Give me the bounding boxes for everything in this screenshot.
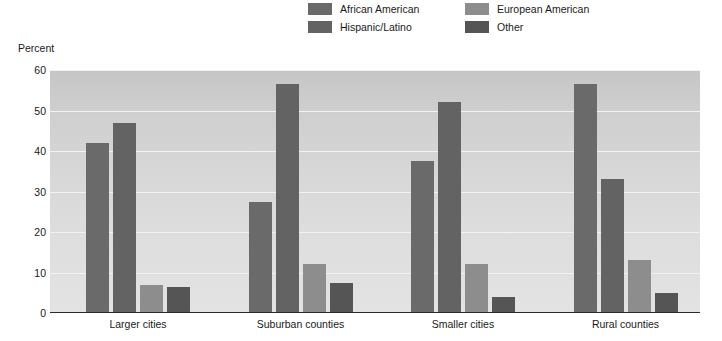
legend-item-european-american: European American [465,3,589,15]
y-axis-tick-label: 60 [6,64,46,76]
legend-swatch-icon [308,3,332,15]
legend-item-other: Other [465,21,523,33]
y-axis-tick-label: 30 [6,186,46,198]
chart-legend: African American European American Hispa… [308,3,608,37]
x-axis-baseline [50,312,700,314]
legend-item-hispanic-latino: Hispanic/Latino [308,21,412,33]
bar [167,287,190,313]
legend-swatch-icon [465,3,489,15]
x-axis-category-label: Rural counties [592,318,659,330]
bar [574,84,597,313]
bar [438,102,461,313]
bar [411,161,434,313]
bar [601,179,624,313]
bar [628,260,651,313]
bar [113,123,136,313]
legend-swatch-icon [465,21,489,33]
y-axis-tick-label: 10 [6,267,46,279]
y-axis-title: Percent [18,42,54,54]
y-axis-tick-label: 0 [6,307,46,319]
bar [303,264,326,313]
x-axis-category-label: Suburban counties [257,318,345,330]
x-axis-category-label: Larger cities [109,318,166,330]
bars-layer [50,70,700,313]
y-axis-tick-label: 20 [6,226,46,238]
legend-label: African American [340,3,419,15]
x-axis-category-label: Smaller cities [432,318,494,330]
bar [249,202,272,313]
legend-swatch-icon [308,21,332,33]
plot-area [50,70,700,313]
bar [465,264,488,313]
legend-label: European American [497,3,589,15]
legend-label: Hispanic/Latino [340,21,412,33]
bar [655,293,678,313]
legend-item-african-american: African American [308,3,419,15]
y-axis: 0102030405060 [0,70,46,313]
legend-label: Other [497,21,523,33]
y-axis-tick-label: 50 [6,105,46,117]
bar [276,84,299,313]
bar [140,285,163,313]
y-axis-tick-label: 40 [6,145,46,157]
bar [86,143,109,313]
x-axis-category-labels: Larger citiesSuburban countiesSmaller ci… [50,318,700,336]
bar [330,283,353,313]
